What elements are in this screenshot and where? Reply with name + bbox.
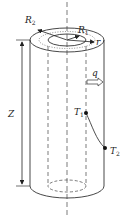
z-label: Z: [7, 109, 15, 119]
r-arrow: [67, 40, 94, 42]
t1-point: [84, 111, 88, 115]
temperature-profile-curve: [86, 113, 105, 148]
t1-label: T1: [74, 107, 84, 118]
r-label: r: [96, 37, 101, 47]
heat-flux-arrow: [87, 78, 103, 86]
r2-label: R2: [24, 15, 36, 26]
r1-label: R1: [77, 25, 89, 36]
q-label: q: [92, 68, 98, 78]
r1-arrow: [67, 36, 79, 40]
t2-label: T2: [110, 146, 120, 157]
t2-point: [103, 146, 107, 150]
hollow-cylinder-diagram: R2 R1 r Z q T1 T2: [0, 0, 124, 218]
